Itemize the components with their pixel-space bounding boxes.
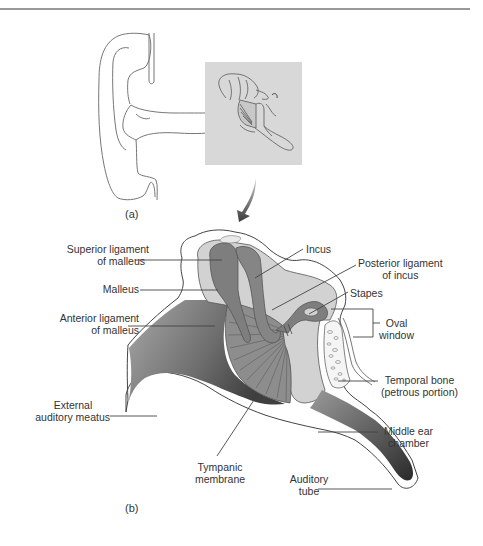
label-superior-ligament: Superior ligament of malleus [67, 244, 149, 267]
label-oval-window-line1: Oval [379, 318, 414, 330]
label-stapes: Stapes [350, 288, 383, 300]
label-posterior-ligament-line1: Posterior ligament [358, 258, 443, 270]
label-posterior-ligament: Posterior ligament of incus [358, 258, 443, 281]
label-oval-window-line2: window [379, 330, 414, 342]
label-anterior-ligament-line2: of malleus [60, 325, 139, 337]
label-anterior-ligament-line1: Anterior ligament [60, 313, 139, 325]
label-oval-window: Oval window [379, 318, 414, 341]
label-external-meatus-line1: External [26, 400, 110, 412]
label-external-meatus-line2: auditory meatus [20, 412, 110, 424]
label-incus: Incus [306, 244, 331, 256]
label-middle-ear-line2: chamber [384, 438, 433, 450]
label-posterior-ligament-line2: of incus [358, 270, 443, 282]
label-superior-ligament-line2: of malleus [67, 256, 149, 268]
label-superior-ligament-line1: Superior ligament [67, 244, 149, 256]
label-auditory-tube-line2: tube [284, 486, 334, 498]
label-temporal-bone-line2: (petrous portion) [381, 387, 458, 399]
label-malleus: Malleus [103, 284, 139, 296]
label-external-auditory-meatus: External auditory meatus [26, 400, 110, 423]
label-middle-ear-chamber: Middle ear chamber [384, 426, 433, 449]
label-middle-ear-line1: Middle ear [384, 426, 433, 438]
label-temporal-bone: Temporal bone (petrous portion) [381, 375, 458, 398]
ear-anatomy-figure: (a) (b) Superior ligament of malleus Mal… [0, 0, 483, 546]
label-auditory-tube: Auditory tube [284, 474, 334, 497]
label-auditory-tube-line1: Auditory [284, 474, 334, 486]
label-tympanic-line1: Tympanic [190, 462, 250, 474]
label-tympanic-membrane: Tympanic membrane [190, 462, 250, 485]
zoom-arrow-icon [237, 178, 256, 222]
label-anterior-ligament: Anterior ligament of malleus [60, 313, 139, 336]
panel-b-label: (b) [125, 502, 138, 514]
label-temporal-bone-line1: Temporal bone [381, 375, 458, 387]
label-tympanic-line2: membrane [190, 474, 250, 486]
panel-a-label: (a) [125, 208, 138, 220]
